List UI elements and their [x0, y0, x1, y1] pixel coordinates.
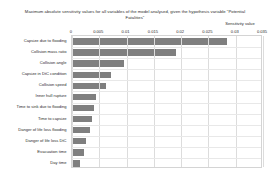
- bar: [72, 116, 92, 122]
- y-axis-category-labels: Capsize due to floodingCollision mass ra…: [0, 35, 69, 168]
- gridline-horizontal: [72, 91, 261, 92]
- gridline-horizontal: [72, 125, 261, 126]
- y-tick-label: Danger of life loss flooding: [18, 127, 66, 132]
- bar: [72, 60, 124, 66]
- y-tick-label: Capsize due to flooding: [24, 38, 67, 43]
- gridline-horizontal: [72, 80, 261, 81]
- y-tick-label: Time to capsize: [38, 116, 67, 121]
- x-tick-label: 0.01: [122, 29, 130, 34]
- bar: [72, 105, 94, 111]
- x-tick-label: 0.025: [202, 29, 212, 34]
- y-tick-label: Collision mass ratio: [31, 49, 67, 54]
- y-tick-label: Capsize in DtC condition: [22, 71, 67, 76]
- bar: [72, 38, 227, 44]
- y-tick-label: Time to sink due to flooding: [17, 104, 67, 109]
- y-tick-label: Danger of life loss DtC: [26, 138, 67, 143]
- chart-title: Maximum absolute sensitivity values for …: [22, 9, 248, 20]
- gridline-horizontal: [72, 47, 261, 48]
- gridline-horizontal: [72, 69, 261, 70]
- x-tick-label: 0.035: [257, 29, 267, 34]
- bar: [72, 49, 176, 55]
- bar: [72, 138, 86, 144]
- sensitivity-bar-chart: Maximum absolute sensitivity values for …: [0, 0, 270, 177]
- bar: [72, 149, 84, 155]
- x-tick-label: 0.03: [231, 29, 239, 34]
- x-tick-label: 0.015: [148, 29, 158, 34]
- gridline-vertical: [263, 36, 264, 167]
- gridline-horizontal: [72, 147, 261, 148]
- gridline-horizontal: [72, 136, 261, 137]
- x-tick-label: 0: [70, 29, 72, 34]
- y-tick-label: Collision speed: [39, 82, 67, 87]
- y-tick-label: Evacuation time: [37, 149, 66, 154]
- y-tick-label: Collision angle: [40, 60, 67, 65]
- x-tick-label: 0.005: [93, 29, 103, 34]
- x-axis-label: Sensitivity value: [214, 21, 266, 26]
- y-tick-label: Day time: [50, 160, 66, 165]
- bar: [72, 72, 111, 78]
- bar: [72, 127, 90, 133]
- plot-area: [71, 35, 262, 168]
- gridline-horizontal: [72, 103, 261, 104]
- gridline-horizontal: [72, 114, 261, 115]
- gridline-horizontal: [72, 158, 261, 159]
- bar: [72, 94, 96, 100]
- bar: [72, 160, 80, 166]
- gridline-horizontal: [72, 58, 261, 59]
- bar: [72, 83, 106, 89]
- x-tick-label: 0.02: [176, 29, 184, 34]
- y-tick-label: Inner hull rupture: [36, 93, 67, 98]
